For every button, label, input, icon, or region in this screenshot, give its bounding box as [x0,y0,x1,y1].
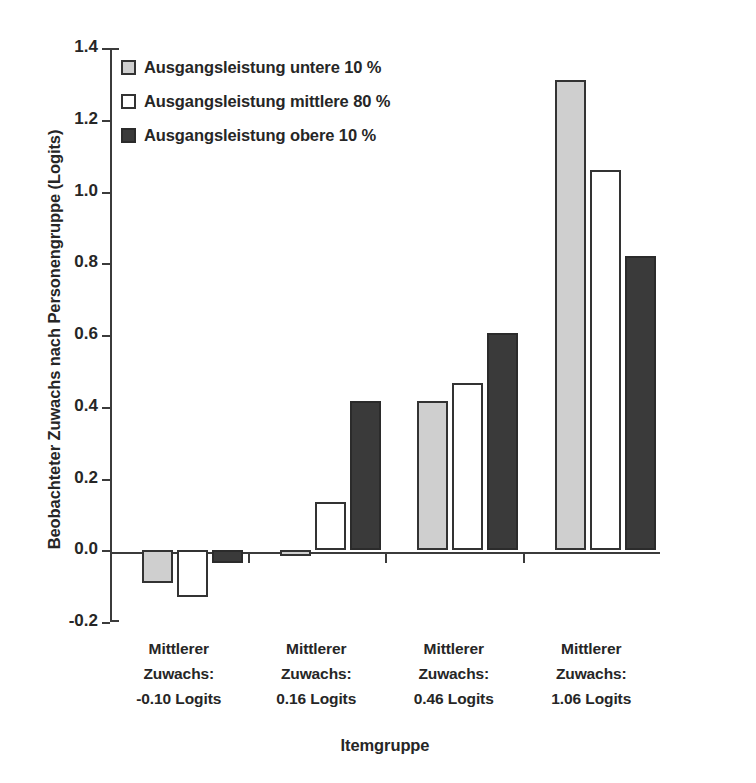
x-category-label-line: Zuwachs: [110,661,248,686]
x-category-label-line: 0.16 Logits [248,686,386,711]
x-category-label-1: MittlererZuwachs:-0.10 Logits [110,636,248,711]
x-group-divider-tick [385,554,387,563]
y-tick-mark [102,479,110,481]
y-tick-label: 0.8 [74,252,98,272]
x-category-label-line: 0.46 Logits [385,686,523,711]
bar-group4-series3 [625,256,656,550]
chart-legend: Ausgangsleistung untere 10 % Ausgangslei… [121,50,461,152]
y-tick-label: 1.4 [74,37,98,57]
bar-group1-series2 [177,550,208,597]
y-tick-mark [102,550,110,552]
x-group-divider-tick [248,554,250,563]
y-tick-label: 0.2 [74,468,98,488]
bar-group3-series3 [487,333,518,550]
x-category-label-line: Zuwachs: [385,661,523,686]
x-axis-category-labels: MittlererZuwachs:-0.10 LogitsMittlererZu… [110,636,660,712]
legend-item-mittlere-80: Ausgangsleistung mittlere 80 % [121,84,461,118]
bar-group3-series1 [417,401,448,550]
bar-group2-series3 [350,401,381,550]
y-tick-mark [102,120,110,122]
x-category-label-line: 1.06 Logits [523,686,661,711]
y-axis-top-cap [110,48,119,50]
x-category-label-3: MittlererZuwachs:0.46 Logits [385,636,523,711]
y-tick-label: 1.2 [74,109,98,129]
x-axis-title: Itemgruppe [110,736,660,755]
bar-group4-series1 [555,80,586,550]
legend-label-obere-10: Ausgangsleistung obere 10 % [144,126,376,145]
legend-item-untere-10: Ausgangsleistung untere 10 % [121,50,461,84]
x-category-label-line: Mittlerer [248,636,386,661]
figure-caption [0,774,756,783]
x-category-label-2: MittlererZuwachs:0.16 Logits [248,636,386,711]
y-tick-mark [102,622,110,624]
legend-swatch-icon-mittlere-80 [121,94,136,109]
y-tick-label: -0.2 [69,611,98,631]
bar-group1-series3 [212,550,243,563]
x-category-label-line: Zuwachs: [523,661,661,686]
y-axis-bottom-cap [110,620,119,622]
y-tick-mark [102,48,110,50]
y-tick-label: 0.4 [74,396,98,416]
x-category-label-line: Zuwachs: [248,661,386,686]
bar-chart-figure: Beobachteter Zuwachs nach Personengruppe… [0,0,756,783]
y-tick-mark [102,263,110,265]
x-category-label-line: -0.10 Logits [110,686,248,711]
legend-label-untere-10: Ausgangsleistung untere 10 % [144,58,381,77]
bar-group1-series1 [142,550,173,582]
legend-item-obere-10: Ausgangsleistung obere 10 % [121,118,461,152]
y-tick-label: 1.0 [74,181,98,201]
x-category-label-line: Mittlerer [385,636,523,661]
x-group-divider-tick [523,554,525,563]
bar-group2-series2 [315,502,346,550]
legend-swatch-icon-untere-10 [121,60,136,75]
legend-swatch-icon-obere-10 [121,128,136,143]
x-category-label-4: MittlererZuwachs:1.06 Logits [523,636,661,711]
y-axis-title: Beobachteter Zuwachs nach Personengruppe… [45,60,64,620]
x-category-label-line: Mittlerer [110,636,248,661]
y-tick-label: 0.0 [74,539,98,559]
y-tick-label: 0.6 [74,324,98,344]
legend-label-mittlere-80: Ausgangsleistung mittlere 80 % [144,92,390,111]
y-tick-mark [102,192,110,194]
y-tick-mark [102,335,110,337]
bar-group4-series2 [590,170,621,550]
x-category-label-line: Mittlerer [523,636,661,661]
y-axis-line [110,48,112,622]
bar-group3-series2 [452,383,483,550]
y-tick-mark [102,407,110,409]
bar-group2-series1 [280,550,311,555]
